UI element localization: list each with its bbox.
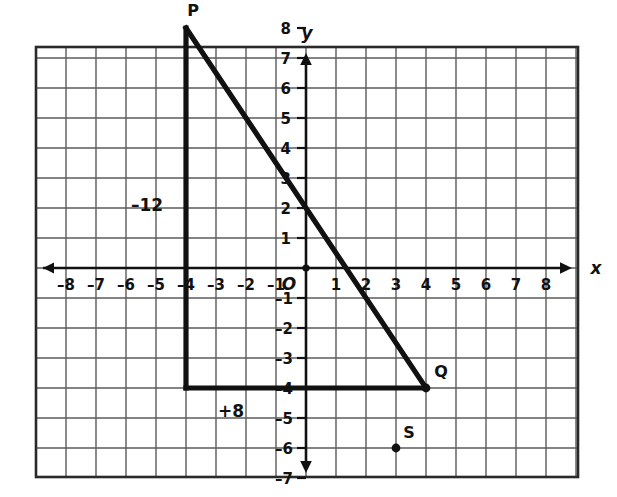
y-tick-label-8: 8 — [281, 20, 291, 38]
x-tick-label-5: 5 — [451, 276, 461, 294]
x-tick-label-8: 8 — [541, 276, 551, 294]
x-tick-label--5: –5 — [147, 276, 165, 294]
y-tick-label--7: –7 — [275, 470, 293, 488]
x-axis-label: x — [590, 258, 603, 278]
x-tick-label-3: 3 — [391, 276, 401, 294]
x-tick-label-6: 6 — [481, 276, 491, 294]
x-tick-label-1: 1 — [331, 276, 341, 294]
y-tick-label--2: –2 — [275, 320, 293, 338]
y-tick-label--3: –3 — [275, 350, 293, 368]
y-axis-label: y — [301, 23, 313, 43]
y-tick-label-4: 4 — [281, 140, 291, 158]
y-tick-label-7: 7 — [281, 50, 291, 68]
origin-label: O — [282, 274, 296, 294]
y-tick-label-5: 5 — [281, 110, 291, 128]
point-label-S: S — [403, 423, 415, 442]
x-tick-label--7: –7 — [87, 276, 105, 294]
x-tick-label-4: 4 — [421, 276, 431, 294]
origin-dot — [302, 264, 309, 271]
segment-annotation-0: –12 — [131, 195, 163, 215]
x-tick-label--8: –8 — [57, 276, 75, 294]
y-tick-label--5: –5 — [275, 410, 293, 428]
y-tick-label-2: 2 — [281, 200, 291, 218]
point-marker-S — [392, 444, 401, 453]
point-label-P: P — [187, 1, 199, 20]
y-tick-label--6: –6 — [275, 440, 293, 458]
x-tick-label--2: –2 — [237, 276, 255, 294]
x-tick-label-7: 7 — [511, 276, 521, 294]
x-tick-label--6: –6 — [117, 276, 135, 294]
y-tick-label-6: 6 — [281, 80, 291, 98]
coordinate-plane-svg: xy–8–7–6–5–4–3–2–11234567887654321–1–2–3… — [0, 0, 617, 497]
y-tick-label-1: 1 — [281, 230, 291, 248]
segment-annotation-1: +8 — [218, 401, 244, 421]
point-label-Q: Q — [434, 362, 448, 381]
x-tick-label--3: –3 — [207, 276, 225, 294]
point-marker-Q — [422, 384, 431, 393]
coordinate-grid-figure: xy–8–7–6–5–4–3–2–11234567887654321–1–2–3… — [0, 0, 617, 497]
